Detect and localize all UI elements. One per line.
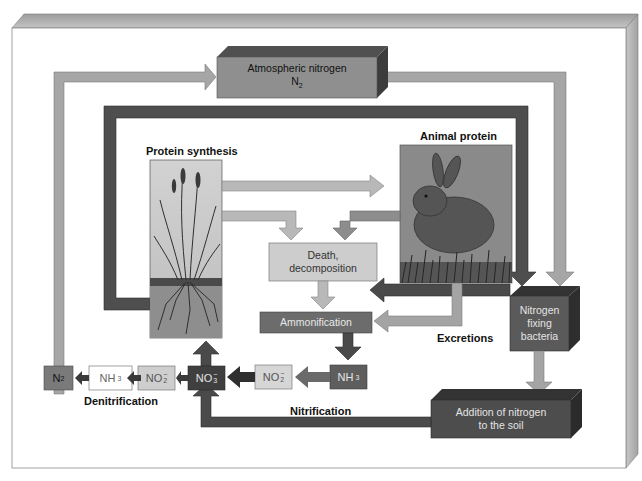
animal-protein-label: Animal protein	[420, 130, 497, 142]
excretions-label: Excretions	[437, 332, 493, 344]
ammonification-label: Ammonification	[260, 312, 372, 333]
formula-n2: N2	[44, 366, 73, 390]
death-decomposition-label: Death, decomposition	[269, 243, 377, 281]
rabbit-illustration	[400, 145, 512, 283]
formula-no2-left: NO −2	[138, 366, 175, 390]
plant-illustration	[150, 160, 222, 338]
formula-no2-right: NO −2	[255, 365, 292, 389]
nitrogen-fixing-bacteria-label: Nitrogen fixing bacteria	[510, 296, 569, 351]
formula-no3: NO −3	[188, 366, 225, 390]
denitrification-label: Denitrification	[84, 395, 158, 407]
addition-of-nitrogen-label: Addition of nitrogen to the soil	[431, 400, 571, 438]
atmospheric-nitrogen-label: Atmospheric nitrogen N2	[217, 57, 377, 98]
atmospheric-line1: Atmospheric nitrogen	[247, 62, 346, 75]
formula-nh3-left: NH3	[89, 366, 132, 390]
protein-synthesis-label: Protein synthesis	[146, 145, 238, 157]
atmospheric-formula: N2	[291, 75, 303, 92]
formula-nh3-right: NH3	[330, 365, 367, 389]
nitrogen-cycle-diagram: Atmospheric nitrogen N2 Protein synthesi…	[0, 0, 642, 481]
nitrification-label: Nitrification	[290, 405, 351, 417]
